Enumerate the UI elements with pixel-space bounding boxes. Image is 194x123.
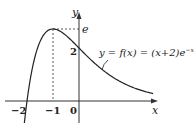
tick-label-0: 0 bbox=[70, 105, 77, 116]
tick-label-neg2: −2 bbox=[11, 105, 26, 116]
function-graph: y x e 2 −2 −1 0 y = f(x) = (x+2)e−x bbox=[0, 0, 194, 123]
y-axis-label: y bbox=[71, 6, 79, 19]
x-axis-arrow-icon bbox=[151, 99, 158, 104]
tick-label-e: e bbox=[82, 23, 89, 36]
label-leader-line bbox=[102, 60, 108, 70]
tick-label-neg1: −1 bbox=[45, 105, 60, 116]
function-curve bbox=[21, 29, 153, 123]
tick-label-y2: 2 bbox=[70, 46, 77, 57]
equation-label: y = f(x) = (x+2)e−x bbox=[98, 46, 194, 58]
x-axis-label: x bbox=[152, 104, 159, 117]
